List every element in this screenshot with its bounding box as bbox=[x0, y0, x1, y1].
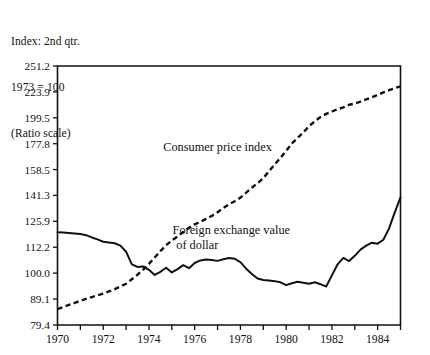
y-axis-tick-label: 100.0 bbox=[25, 267, 51, 279]
x-axis-tick-label: 1974 bbox=[137, 333, 160, 346]
y-axis-tick-label: 223.9 bbox=[25, 86, 51, 98]
series-label-foreign-exchange-line1: Foreign exchange value bbox=[173, 223, 291, 237]
y-axis-tick-label: 112.2 bbox=[25, 241, 50, 253]
x-axis-tick-label: 1980 bbox=[275, 333, 298, 346]
x-axis-tick-label: 1976 bbox=[183, 333, 206, 346]
y-axis-tick-label: 125.9 bbox=[25, 215, 51, 227]
series-label-consumer-price-index: Consumer price index bbox=[163, 140, 272, 154]
y-axis-tick-label: 177.8 bbox=[25, 138, 51, 150]
x-axis-tick-label: 1972 bbox=[92, 333, 115, 346]
y-axis-tick-label: 79.4 bbox=[30, 319, 50, 331]
x-axis-tick-label: 1984 bbox=[366, 333, 389, 346]
y-axis-tick-label: 199.5 bbox=[25, 112, 51, 124]
series-line-consumer-price-index bbox=[58, 86, 401, 309]
chart-figure: Index: 2nd qtr. 1973 = 100 (Ratio scale)… bbox=[0, 0, 430, 355]
y-axis-tick-label: 251.2 bbox=[25, 60, 51, 72]
chart-plot-area: 79.489.1100.0112.2125.9141.3158.5177.819… bbox=[0, 0, 430, 355]
y-axis-tick-label: 158.5 bbox=[25, 164, 51, 176]
x-axis-tick-group: 19701972197419761978198019821984 bbox=[46, 325, 401, 346]
y-axis-tick-label: 141.3 bbox=[25, 189, 51, 201]
x-axis-tick-label: 1970 bbox=[46, 333, 69, 346]
series-line-foreign-exchange-value-of-dollar bbox=[58, 197, 401, 286]
y-axis-tick-group: 79.489.1100.0112.2125.9141.3158.5177.819… bbox=[25, 60, 58, 331]
x-axis-tick-label: 1978 bbox=[229, 333, 252, 346]
x-axis-tick-label: 1982 bbox=[320, 333, 343, 346]
y-axis-tick-label: 89.1 bbox=[30, 293, 50, 305]
series-label-foreign-exchange-line2: of dollar bbox=[176, 238, 218, 252]
